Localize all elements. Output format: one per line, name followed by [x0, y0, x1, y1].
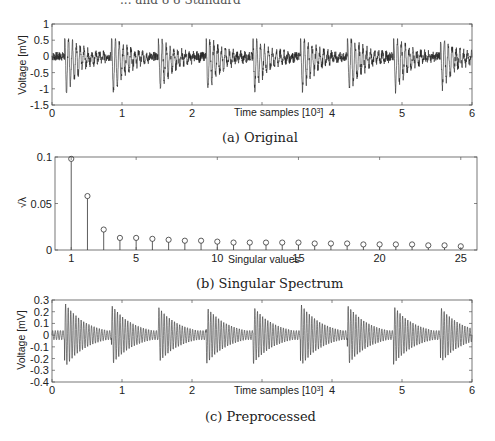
stem-marker: [247, 240, 252, 245]
x-tick-label: 10: [211, 252, 223, 264]
x-tick-label: 2: [189, 384, 195, 396]
stem-marker: [231, 240, 236, 245]
x-tick-label: 4: [329, 384, 335, 396]
stem-marker: [263, 240, 268, 245]
preprocessed-signal-trace: [52, 304, 472, 365]
stem-marker: [426, 243, 431, 248]
stem-marker: [328, 241, 333, 246]
y-tick-label: -0.1: [30, 341, 49, 353]
x-tick-label: 6: [469, 107, 475, 119]
caption-singular-spectrum: (b) Singular Spectrum: [196, 276, 343, 291]
stem-marker: [101, 227, 106, 232]
y-axis-label: Voltage [mV]: [15, 310, 27, 370]
stem-marker: [312, 241, 317, 246]
x-tick-label: 0: [49, 384, 55, 396]
y-tick-label: 0.1: [37, 151, 52, 163]
stem-marker: [361, 242, 366, 247]
stem-marker: [377, 242, 382, 247]
y-tick-label: -0.4: [30, 376, 49, 388]
y-axis-label: √λ: [16, 196, 28, 208]
x-axis-label: Time samples [103]: [234, 106, 323, 118]
figure: ... and 8 8 Standard 012456-1.5-1-0.500.…: [0, 0, 495, 441]
stem-marker: [85, 193, 90, 198]
stem-marker: [117, 235, 122, 240]
y-tick-label: -1: [39, 83, 49, 95]
x-axis-label: Time samples [103]: [234, 384, 323, 396]
stem-marker: [134, 235, 139, 240]
axis-ticks: 012456-0.4-0.3-0.2-0.100.10.20.3: [30, 294, 475, 396]
stem-marker: [215, 239, 220, 244]
y-tick-label: 0.1: [34, 317, 49, 329]
x-axis-label: Singular values: [228, 253, 300, 265]
x-tick-label: 5: [399, 107, 405, 119]
y-tick-label: 1: [43, 18, 49, 30]
y-tick-label: 0.05: [31, 198, 52, 210]
y-tick-label: -1.5: [30, 99, 49, 111]
axis-ticks: 012456-1.5-1-0.500.51: [30, 18, 475, 119]
stem-marker: [442, 243, 447, 248]
original-signal-trace: [52, 39, 472, 94]
chart-singular-spectrum: 151015202500.050.1 Singular values √λ (b…: [16, 151, 477, 291]
x-tick-label: 5: [399, 384, 405, 396]
y-tick-label: 0.2: [34, 306, 49, 318]
y-tick-label: 0.3: [34, 294, 49, 306]
stem-marker: [296, 240, 301, 245]
stem-marker: [166, 237, 171, 242]
x-tick-label: 1: [119, 384, 125, 396]
x-tick-label: 2: [189, 107, 195, 119]
stem-marker: [182, 238, 187, 243]
x-tick-label: 5: [133, 252, 139, 264]
singular-value-stems: [69, 156, 464, 250]
y-tick-label: -0.2: [30, 353, 49, 365]
x-tick-label: 1: [119, 107, 125, 119]
axis-ticks: 151015202500.050.1: [31, 151, 477, 264]
x-tick-label: 4: [329, 107, 335, 119]
chart-preprocessed: 012456-0.4-0.3-0.2-0.100.10.20.3 Time sa…: [15, 294, 475, 424]
y-tick-label: 0: [46, 244, 52, 256]
x-tick-label: 1: [68, 252, 74, 264]
header-fragment: ... and 8 8 Standard: [120, 0, 241, 7]
y-tick-label: -0.5: [30, 67, 49, 79]
x-tick-label: 0: [49, 107, 55, 119]
x-tick-label: 6: [469, 384, 475, 396]
y-tick-label: -0.3: [30, 364, 49, 376]
chart-original: 012456-1.5-1-0.500.51 Time samples [103]…: [16, 18, 475, 145]
caption-preprocessed: (c) Preprocessed: [205, 409, 316, 424]
y-axis-label: Voltage [mV]: [16, 35, 28, 95]
caption-original: (a) Original: [222, 130, 298, 145]
stem-marker: [345, 241, 350, 246]
y-tick-label: 0.5: [34, 34, 49, 46]
stem-marker: [150, 236, 155, 241]
stem-marker: [393, 242, 398, 247]
stem-marker: [198, 238, 203, 243]
y-tick-label: 0: [43, 329, 49, 341]
y-tick-label: 0: [43, 50, 49, 62]
x-tick-label: 20: [373, 252, 385, 264]
x-tick-label: 25: [455, 252, 467, 264]
stem-marker: [280, 240, 285, 245]
stem-marker: [409, 242, 414, 247]
